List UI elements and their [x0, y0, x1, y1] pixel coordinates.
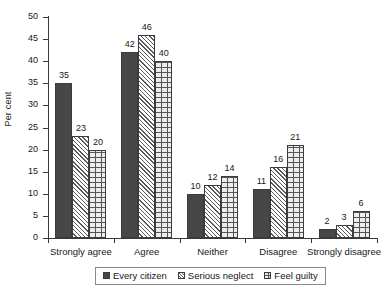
y-axis-tick-label: 5	[12, 211, 38, 220]
y-axis-tick-label: 35	[12, 78, 38, 87]
y-axis-tick-label: 45	[12, 34, 38, 43]
y-axis-tick	[43, 194, 48, 195]
x-axis-tick	[377, 238, 378, 243]
x-axis-tick	[114, 238, 115, 243]
bar	[89, 150, 106, 238]
bar	[72, 136, 89, 238]
x-axis-tick	[180, 238, 181, 243]
bar	[55, 83, 72, 238]
bar	[121, 52, 138, 238]
legend-swatch-serious-neglect	[178, 272, 185, 279]
y-axis-tick-label: 40	[12, 56, 38, 65]
y-axis-tick	[43, 61, 48, 62]
y-axis-tick	[43, 150, 48, 151]
y-axis-tick-label: 20	[12, 145, 38, 154]
bar	[187, 194, 204, 238]
bar-value-label: 14	[215, 164, 244, 173]
legend-label-serious-neglect: Serious neglect	[188, 270, 253, 281]
y-axis-tick-label: 0	[12, 233, 38, 242]
x-axis-category-label: Strongly disagree	[299, 246, 387, 257]
x-axis-line	[48, 238, 377, 239]
legend-item: Serious neglect	[178, 270, 253, 281]
bar-value-label: 6	[347, 199, 376, 208]
bar	[155, 61, 172, 238]
y-axis-tick-label: 50	[12, 12, 38, 21]
x-axis-tick	[48, 238, 49, 243]
y-axis-tick	[43, 105, 48, 106]
y-axis-tick-label: 30	[12, 100, 38, 109]
bar-value-label: 40	[149, 49, 178, 58]
x-axis-tick	[245, 238, 246, 243]
y-axis-tick	[43, 216, 48, 217]
y-axis-tick	[43, 128, 48, 129]
y-axis-tick	[43, 83, 48, 84]
y-axis-tick-label: 25	[12, 123, 38, 132]
bar-value-label: 21	[281, 133, 310, 142]
legend: Every citizen Serious neglect Feel guilt…	[95, 267, 326, 285]
bar	[204, 185, 221, 238]
y-axis-line	[48, 16, 49, 239]
bar	[319, 229, 336, 238]
bar-chart: Per cent 05101520253035404550 3523204246…	[0, 0, 387, 292]
legend-label-feel-guilty: Feel guilty	[274, 270, 317, 281]
legend-item: Every citizen	[103, 270, 167, 281]
bar	[253, 189, 270, 238]
y-axis-tick	[43, 17, 48, 18]
y-axis-tick-label: 15	[12, 167, 38, 176]
bar	[287, 145, 304, 238]
bar-value-label: 35	[49, 71, 78, 80]
bar	[138, 35, 155, 238]
legend-swatch-feel-guilty	[264, 272, 271, 279]
bar	[353, 211, 370, 238]
legend-item: Feel guilty	[264, 270, 317, 281]
x-axis-tick	[311, 238, 312, 243]
bar	[270, 167, 287, 238]
bar-value-label: 23	[66, 124, 95, 133]
y-axis-tick-label: 10	[12, 189, 38, 198]
bar-value-label: 20	[83, 138, 112, 147]
y-axis-tick	[43, 172, 48, 173]
bar	[221, 176, 238, 238]
bar	[336, 225, 353, 238]
legend-swatch-every-citizen	[103, 272, 110, 279]
legend-label-every-citizen: Every citizen	[113, 270, 167, 281]
y-axis-tick	[43, 39, 48, 40]
bar-value-label: 46	[132, 23, 161, 32]
